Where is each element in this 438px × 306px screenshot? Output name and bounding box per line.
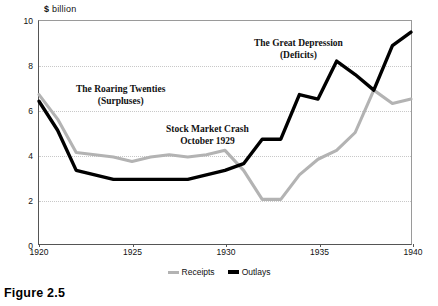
annotation-great-depression-line2: (Deficits)	[254, 50, 343, 62]
annotation-great-depression: The Great Depression (Deficits)	[254, 38, 343, 62]
y-axis-tick-label-6: 6	[28, 107, 33, 116]
legend-label-outlays: Outlays	[242, 268, 271, 277]
y-axis-tick-label-10: 10	[24, 17, 33, 26]
legend-item-outlays[interactable]: Outlays	[228, 268, 271, 277]
annotation-roaring-twenties-line2: (Surpluses)	[76, 96, 165, 108]
legend-swatch-receipts-icon	[168, 271, 179, 274]
figure-container: $ billion 0246810 19201925193019351940 T…	[0, 0, 438, 306]
annotation-stock-market-crash-line1: Stock Market Crash	[166, 124, 249, 136]
figure-caption: Figure 2.5	[4, 286, 65, 300]
annotation-stock-market-crash-line2: October 1929	[166, 136, 249, 148]
legend-item-receipts[interactable]: Receipts	[168, 268, 215, 277]
x-axis-tick-label-1930: 1930	[217, 248, 236, 257]
legend-label-receipts: Receipts	[182, 268, 215, 277]
annotation-stock-market-crash: Stock Market Crash October 1929	[166, 124, 249, 148]
annotation-roaring-twenties: The Roaring Twenties (Surpluses)	[76, 84, 165, 108]
x-axis-tick-mark-1935	[320, 244, 321, 247]
y-axis-unit-label: billion	[52, 4, 76, 14]
y-axis-tick-label-4: 4	[28, 152, 33, 161]
y-axis-currency-symbol: $	[44, 4, 49, 14]
y-axis-tick-label-2: 2	[28, 197, 33, 206]
y-axis-tick-label-8: 8	[28, 62, 33, 71]
x-axis-tick-label-1935: 1935	[310, 248, 329, 257]
x-axis-tick-mark-1940	[413, 244, 414, 247]
x-axis-tick-label-1925: 1925	[123, 248, 142, 257]
x-axis-tick-mark-1925	[133, 244, 134, 247]
chart-legend: Receipts Outlays	[0, 268, 438, 277]
legend-swatch-outlays-icon	[228, 270, 239, 274]
annotation-roaring-twenties-line1: The Roaring Twenties	[76, 84, 165, 96]
x-axis-tick-label-1920: 1920	[30, 248, 49, 257]
x-axis-tick-label-1940: 1940	[404, 248, 423, 257]
y-axis-title: $ billion	[44, 4, 76, 14]
annotation-great-depression-line1: The Great Depression	[254, 38, 343, 50]
x-axis-tick-mark-1930	[226, 244, 227, 247]
x-axis-tick-mark-1920	[39, 244, 40, 247]
